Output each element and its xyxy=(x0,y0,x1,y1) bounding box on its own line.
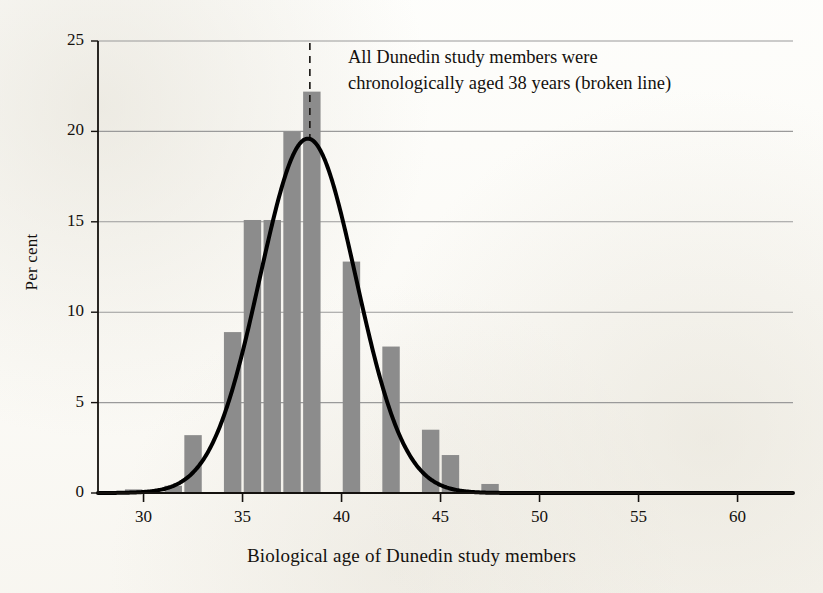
x-tick-label: 30 xyxy=(124,507,164,527)
y-tick-label: 5 xyxy=(50,392,84,412)
annotation-line-1: All Dunedin study members were xyxy=(348,44,671,70)
bar xyxy=(244,220,261,493)
chart-figure: Per cent Biological age of Dunedin study… xyxy=(0,0,823,593)
y-tick-label: 0 xyxy=(50,482,84,502)
y-tick-label: 20 xyxy=(50,120,84,140)
bar xyxy=(343,262,360,493)
normal-curve xyxy=(98,139,793,493)
x-tick-label: 50 xyxy=(520,507,560,527)
bar xyxy=(283,131,300,493)
annotation-line-2: chronologically aged 38 years (broken li… xyxy=(348,70,671,96)
bar xyxy=(264,220,281,493)
y-tick-label: 10 xyxy=(50,301,84,321)
chart-annotation: All Dunedin study members were chronolog… xyxy=(348,44,671,97)
y-tick-label: 15 xyxy=(50,211,84,231)
y-axis-title: Per cent xyxy=(22,192,42,332)
x-tick-label: 60 xyxy=(718,507,758,527)
x-axis-title: Biological age of Dunedin study members xyxy=(0,545,823,567)
x-tick-label: 45 xyxy=(421,507,461,527)
x-tick-label: 55 xyxy=(619,507,659,527)
bar xyxy=(303,92,320,493)
x-tick-label: 35 xyxy=(223,507,263,527)
bar xyxy=(382,347,399,493)
x-tick-label: 40 xyxy=(322,507,362,527)
y-tick-label: 25 xyxy=(50,30,84,50)
